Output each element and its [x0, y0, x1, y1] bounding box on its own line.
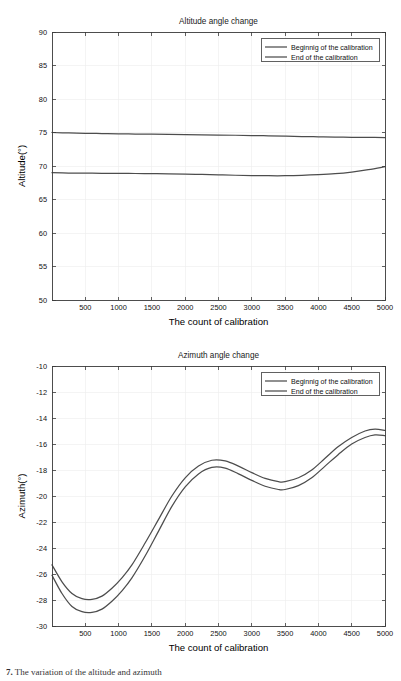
x-tick-label: 2000 [177, 303, 193, 312]
y-axis-label: Azimuth(°) [16, 474, 27, 519]
x-tick-label: 1500 [144, 303, 160, 312]
x-tick-label: 4000 [310, 303, 326, 312]
legend-label-2: End of the calibration [291, 388, 358, 396]
y-tick-label: -14 [36, 414, 47, 423]
chart-title: Altitude angle change [179, 17, 258, 26]
figure-page: Altitude angle change5001000150020002500… [0, 0, 401, 681]
x-tick-label: 5000 [377, 303, 393, 312]
x-tick-label: 4000 [310, 629, 326, 638]
x-tick-label: 500 [79, 303, 91, 312]
x-axis-label: The count of calibration [169, 316, 269, 327]
x-tick-label: 1000 [110, 629, 126, 638]
x-axis-label: The count of calibration [169, 642, 269, 653]
chart-title: Azimuth angle change [178, 351, 259, 360]
x-tick-label: 1500 [144, 629, 160, 638]
x-tick-label: 4500 [343, 303, 359, 312]
legend-label-1: Beginnig of the calibration [291, 378, 373, 386]
legend: Beginnig of the calibrationEnd of the ca… [261, 372, 379, 396]
azimuth-angle-figure: Azimuth angle change50010001500200025003… [0, 340, 401, 666]
azimuth-angle-plot: Azimuth angle change50010001500200025003… [0, 340, 401, 666]
caption-text: The variation of the altitude and azimut… [15, 667, 162, 677]
y-tick-label: 85 [39, 61, 47, 70]
y-tick-label: -12 [36, 388, 47, 397]
altitude-angle-plot: Altitude angle change5001000150020002500… [0, 4, 401, 340]
y-tick-label: -22 [36, 518, 47, 527]
caption-marker: 7. [6, 667, 13, 677]
y-tick-label: -16 [36, 440, 47, 449]
grid-lines [52, 32, 385, 300]
y-tick-label: 55 [39, 262, 47, 271]
y-tick-label: -24 [36, 544, 47, 553]
y-tick-label: 90 [39, 28, 47, 37]
x-tick-label: 3500 [277, 303, 293, 312]
y-tick-label: -30 [36, 622, 47, 631]
y-tick-label: 75 [39, 128, 47, 137]
y-tick-label: 50 [39, 296, 47, 305]
axis-ticks: 500100015002000250030003500400045005000-… [36, 362, 393, 638]
y-tick-label: -28 [36, 596, 47, 605]
figure-caption: 7. The variation of the altitude and azi… [6, 666, 396, 679]
y-tick-label: -20 [36, 492, 47, 501]
x-tick-label: 5000 [377, 629, 393, 638]
legend-label-1: Beginnig of the calibration [291, 44, 373, 52]
x-tick-label: 3500 [277, 629, 293, 638]
x-tick-label: 2500 [210, 303, 226, 312]
x-tick-label: 3000 [244, 629, 260, 638]
y-tick-label: 70 [39, 162, 47, 171]
y-axis-label: Altitude(°) [16, 145, 27, 187]
legend: Beginnig of the calibrationEnd of the ca… [261, 38, 379, 62]
y-tick-label: -18 [36, 466, 47, 475]
x-tick-label: 2500 [210, 629, 226, 638]
legend-label-2: End of the calibration [291, 54, 358, 62]
x-tick-label: 4500 [343, 629, 359, 638]
y-tick-label: 65 [39, 195, 47, 204]
y-tick-label: 80 [39, 95, 47, 104]
x-tick-label: 1000 [110, 303, 126, 312]
grid-lines [52, 366, 385, 626]
y-tick-label: -26 [36, 570, 47, 579]
y-tick-label: 60 [39, 229, 47, 238]
x-tick-label: 3000 [244, 303, 260, 312]
y-tick-label: -10 [36, 362, 47, 371]
x-tick-label: 2000 [177, 629, 193, 638]
axis-ticks: 5001000150020002500300035004000450050005… [39, 28, 393, 312]
altitude-angle-figure: Altitude angle change5001000150020002500… [0, 4, 401, 340]
x-tick-label: 500 [79, 629, 91, 638]
